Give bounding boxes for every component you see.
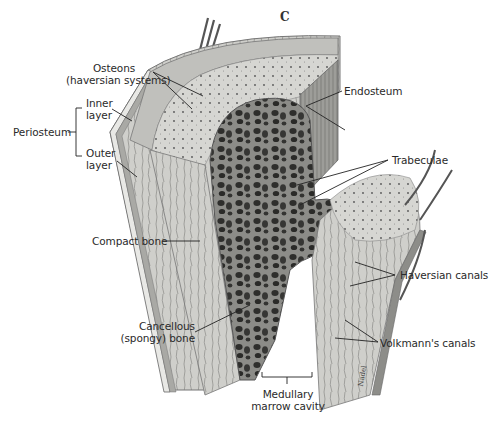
label-trabeculae: Trabeculae (392, 154, 448, 166)
label-inner-layer: Inner layer (86, 97, 113, 121)
label-haversian-canals: Haversian canals (400, 269, 488, 281)
label-compact-bone: Compact bone (92, 235, 167, 247)
label-osteons: Osteons (haversian systems) (66, 62, 162, 86)
label-volkmanns-canals: Volkmann's canals (380, 337, 475, 349)
label-medullary-cavity: Medullary marrow cavity (250, 388, 326, 412)
label-endosteum: Endosteum (344, 85, 402, 97)
panel-letter: C (280, 10, 290, 24)
label-periosteum: Periosteum (13, 126, 71, 138)
label-outer-layer: Outer layer (86, 147, 115, 171)
label-cancellous-bone: Cancellous (spongy) bone (120, 320, 195, 344)
